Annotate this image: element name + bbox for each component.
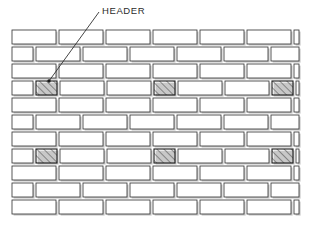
brick-face — [130, 115, 174, 129]
brick-face — [177, 183, 221, 197]
brick-face — [130, 47, 174, 61]
brick-face — [154, 149, 175, 163]
brick-face — [83, 115, 127, 129]
brick-face — [59, 166, 103, 180]
brick-face — [106, 98, 150, 112]
brick-face — [12, 64, 56, 78]
brick-face — [200, 132, 244, 146]
stretcher-brick — [12, 98, 58, 114]
stretcher-brick — [294, 64, 301, 80]
brick-face — [294, 200, 299, 214]
stretcher-brick — [130, 47, 176, 63]
brick-face — [106, 200, 150, 214]
brick-face — [36, 115, 80, 129]
stretcher-brick — [271, 115, 301, 131]
brick-face — [224, 115, 268, 129]
stretcher-brick — [59, 166, 105, 182]
stretcher-brick — [36, 115, 82, 131]
stretcher-brick — [59, 30, 105, 46]
brick-face — [272, 149, 293, 163]
brick-face — [153, 30, 197, 44]
stretcher-brick — [107, 149, 153, 165]
brick-face — [153, 200, 197, 214]
stretcher-brick — [106, 30, 152, 46]
brick-face — [83, 47, 127, 61]
brick-face — [12, 166, 56, 180]
header-brick — [272, 81, 295, 97]
stretcher-brick — [12, 30, 58, 46]
brick-face — [247, 132, 291, 146]
brick-face — [106, 132, 150, 146]
brick-face — [224, 47, 268, 61]
stretcher-brick — [294, 30, 301, 46]
brick-face — [12, 98, 56, 112]
brick-face — [247, 98, 291, 112]
brick-face — [247, 200, 291, 214]
stretcher-brick — [59, 132, 105, 148]
stretcher-brick — [153, 132, 199, 148]
brick-face — [296, 81, 299, 95]
brick-face — [59, 200, 103, 214]
stretcher-brick — [36, 47, 82, 63]
stretcher-brick — [12, 64, 58, 80]
stretcher-brick — [12, 81, 35, 97]
brick-face — [154, 81, 175, 95]
brick-face — [247, 166, 291, 180]
brick-face — [177, 115, 221, 129]
stretcher-brick — [224, 47, 270, 63]
brick-face — [272, 81, 293, 95]
stretcher-brick — [200, 64, 246, 80]
stretcher-brick — [12, 132, 58, 148]
stretcher-brick — [294, 166, 301, 182]
brick-face — [200, 64, 244, 78]
stretcher-brick — [12, 183, 35, 199]
brick-face — [59, 132, 103, 146]
stretcher-brick — [153, 30, 199, 46]
stretcher-brick — [178, 81, 224, 97]
brick-face — [12, 81, 33, 95]
stretcher-brick — [59, 64, 105, 80]
brick-face — [224, 183, 268, 197]
brick-face — [247, 30, 291, 44]
stretcher-brick — [12, 166, 58, 182]
stretcher-brick — [247, 30, 293, 46]
header-brick — [154, 149, 177, 165]
brick-face — [130, 183, 174, 197]
brick-face — [271, 183, 299, 197]
stretcher-brick — [271, 47, 301, 63]
stretcher-brick — [83, 115, 129, 131]
stretcher-brick — [106, 200, 152, 216]
brick-face — [12, 132, 56, 146]
stretcher-brick — [83, 183, 129, 199]
stretcher-brick — [200, 30, 246, 46]
stretcher-brick — [294, 200, 301, 216]
brick-face — [271, 115, 299, 129]
brick-face — [294, 30, 299, 44]
stretcher-brick — [59, 98, 105, 114]
stretcher-brick — [225, 149, 271, 165]
stretcher-brick — [106, 98, 152, 114]
stretcher-brick — [107, 81, 153, 97]
brick-face — [200, 166, 244, 180]
brick-face — [59, 64, 103, 78]
header-brick — [154, 81, 177, 97]
stretcher-brick — [36, 183, 82, 199]
stretcher-brick — [59, 200, 105, 216]
stretcher-brick — [106, 64, 152, 80]
brick-face — [106, 30, 150, 44]
brick-face — [200, 30, 244, 44]
brick-face — [107, 149, 151, 163]
stretcher-brick — [12, 115, 35, 131]
stretcher-brick — [224, 183, 270, 199]
brick-face — [106, 64, 150, 78]
stretcher-brick — [200, 98, 246, 114]
stretcher-brick — [247, 200, 293, 216]
brick-face — [107, 81, 151, 95]
brick-face — [59, 98, 103, 112]
stretcher-brick — [177, 183, 223, 199]
header-brick — [36, 81, 59, 97]
stretcher-brick — [296, 149, 301, 165]
brick-face — [12, 47, 33, 61]
stretcher-brick — [224, 115, 270, 131]
brick-face — [36, 149, 57, 163]
